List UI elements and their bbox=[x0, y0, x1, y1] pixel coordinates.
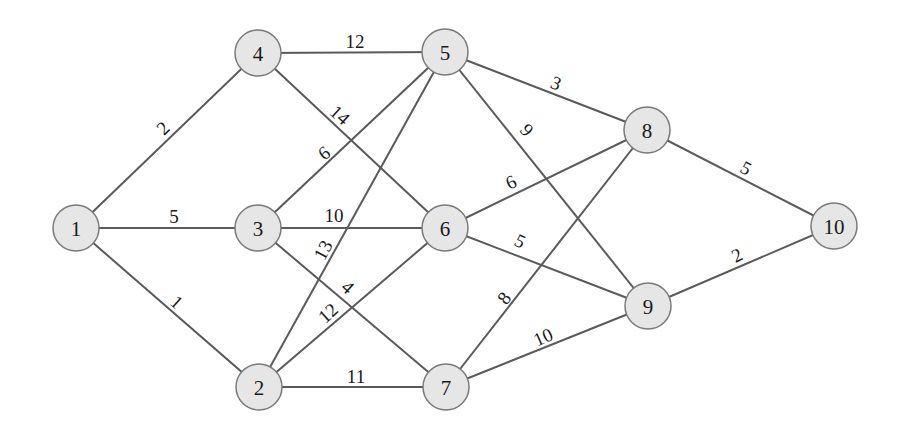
edge-weight-2-7: 11 bbox=[347, 366, 365, 387]
edge-4-5 bbox=[258, 52, 445, 53]
edge-weight-3-7: 4 bbox=[337, 276, 358, 298]
node-4: 4 bbox=[235, 30, 281, 76]
node-label: 2 bbox=[254, 376, 265, 400]
node-label: 5 bbox=[440, 41, 451, 65]
node-10: 10 bbox=[811, 203, 857, 249]
node-8: 8 bbox=[624, 107, 670, 153]
node-label: 8 bbox=[642, 119, 653, 143]
edge-weight-5-9: 9 bbox=[516, 119, 538, 140]
weighted-graph-diagram: 25112146104131211396581052 12345678910 bbox=[0, 0, 899, 436]
edge-weight-8-10: 5 bbox=[737, 156, 755, 179]
node-5: 5 bbox=[422, 29, 468, 75]
edge-weight-9-10: 2 bbox=[728, 243, 746, 266]
edge-weight-5-8: 3 bbox=[548, 71, 565, 94]
node-label: 1 bbox=[71, 217, 82, 241]
edge-7-8 bbox=[446, 130, 647, 387]
edge-6-8 bbox=[445, 130, 647, 228]
edge-weight-3-5: 6 bbox=[314, 142, 334, 164]
node-label: 10 bbox=[824, 215, 845, 239]
edge-8-10 bbox=[647, 130, 834, 226]
edge-9-10 bbox=[648, 226, 834, 306]
node-label: 7 bbox=[441, 376, 452, 400]
edge-weight-2-5: 13 bbox=[309, 237, 336, 264]
node-label: 6 bbox=[440, 217, 451, 241]
node-label: 3 bbox=[253, 217, 264, 241]
node-3: 3 bbox=[235, 205, 281, 251]
edge-weight-7-8: 8 bbox=[493, 288, 515, 308]
edge-1-4 bbox=[76, 53, 258, 228]
node-1: 1 bbox=[53, 205, 99, 251]
node-label: 4 bbox=[253, 42, 264, 66]
edge-weight-1-3: 5 bbox=[169, 206, 179, 227]
node-2: 2 bbox=[236, 364, 282, 410]
edge-weight-7-9: 10 bbox=[530, 324, 556, 351]
node-6: 6 bbox=[422, 205, 468, 251]
edge-weight-1-4: 2 bbox=[152, 117, 173, 139]
node-label: 9 bbox=[643, 295, 654, 319]
edge-weight-4-6: 14 bbox=[326, 101, 355, 130]
edge-weight-4-5: 12 bbox=[346, 31, 365, 52]
edge-weight-6-8: 6 bbox=[502, 170, 520, 193]
node-7: 7 bbox=[423, 364, 469, 410]
edge-weight-6-9: 5 bbox=[511, 229, 529, 252]
edge-2-5 bbox=[259, 52, 445, 387]
edge-weight-2-6: 12 bbox=[314, 299, 342, 327]
node-9: 9 bbox=[625, 283, 671, 329]
edge-weight-3-6: 10 bbox=[325, 205, 344, 226]
